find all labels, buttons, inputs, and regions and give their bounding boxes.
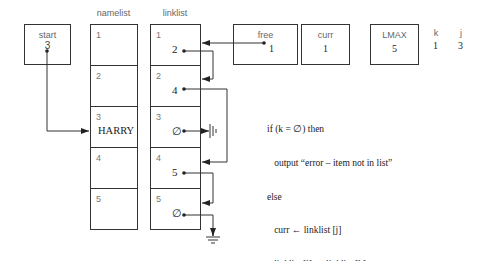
- code-line: else: [267, 192, 392, 203]
- start-dot: [45, 49, 49, 53]
- link-4-to-5-arrow: [184, 173, 213, 203]
- code-line: if (k = ∅) then: [267, 124, 392, 135]
- ground-icon-vertical: [210, 124, 216, 138]
- code-line: output “error – item not in list”: [267, 158, 392, 169]
- link-1-to-2-arrow: [184, 51, 213, 79]
- code-line: curr ← linklist [j]: [267, 225, 392, 236]
- free-dot: [262, 41, 266, 45]
- link-5-null-line: [184, 215, 213, 236]
- pseudocode-block: if (k = ∅) then output “error – item not…: [267, 102, 392, 261]
- start-pointer-arrow: [47, 51, 89, 131]
- ground-icon: [206, 230, 220, 243]
- pointer-arrows: [0, 0, 486, 261]
- link-2-to-4-arrow: [184, 89, 227, 162]
